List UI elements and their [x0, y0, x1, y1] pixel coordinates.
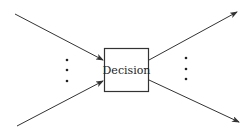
- output-arrow-bottom: [149, 80, 239, 122]
- decision-label: Decision: [103, 64, 151, 77]
- decision-diagram: Decision: [0, 0, 251, 132]
- input-arrow-bottom: [17, 81, 103, 126]
- ellipsis-right: [185, 57, 188, 81]
- output-arrow-top: [149, 12, 237, 60]
- input-arrow-top: [15, 14, 103, 60]
- ellipsis-left: [66, 59, 69, 83]
